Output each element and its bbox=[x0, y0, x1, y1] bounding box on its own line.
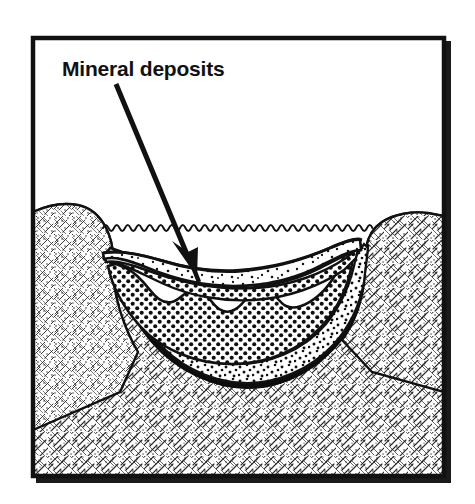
figure-root: Mineral deposits bbox=[0, 0, 475, 504]
mineral-deposits-label: Mineral deposits bbox=[62, 57, 225, 80]
cross-section-figure: Mineral deposits bbox=[0, 0, 475, 504]
